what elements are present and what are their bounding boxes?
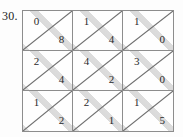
cell-lower-digit: 5 bbox=[160, 115, 166, 126]
cell-lower-digit: 0 bbox=[160, 74, 166, 85]
cell-diagonal-icon bbox=[123, 11, 173, 50]
highlight-stripe bbox=[123, 91, 173, 131]
lattice-cell-r3c3: 1 5 bbox=[123, 91, 173, 131]
lattice-cell-r2c1: 2 4 bbox=[23, 51, 73, 91]
highlight-stripe bbox=[23, 11, 73, 51]
highlight-stripe bbox=[73, 91, 123, 131]
lattice-cell-r3c1: 1 2 bbox=[23, 91, 73, 131]
lattice-cell-r1c1: 0 8 bbox=[23, 11, 73, 51]
cell-diagonal-icon bbox=[73, 91, 122, 131]
lattice-cell-r1c2: 1 4 bbox=[73, 11, 123, 51]
cell-lower-digit: 2 bbox=[59, 115, 65, 126]
lattice-grid: 0 8 1 4 1 0 2 4 4 2 bbox=[22, 10, 174, 132]
highlight-stripe bbox=[23, 51, 73, 91]
cell-diagonal-icon bbox=[73, 11, 122, 50]
lattice-problem-figure: 30. 0 8 1 4 1 0 2 4 bbox=[0, 0, 183, 137]
highlight-stripe bbox=[23, 91, 73, 131]
cell-upper-digit: 2 bbox=[84, 97, 90, 108]
highlight-stripe bbox=[73, 51, 123, 91]
highlight-stripe bbox=[123, 51, 173, 91]
cell-upper-digit: 3 bbox=[134, 56, 140, 67]
highlight-stripe bbox=[123, 11, 173, 51]
cell-diagonal-icon bbox=[73, 51, 122, 90]
lattice-cell-r1c3: 1 0 bbox=[123, 11, 173, 51]
lattice-cell-r3c2: 2 1 bbox=[73, 91, 123, 131]
cell-lower-digit: 1 bbox=[109, 115, 115, 126]
problem-number-label: 30. bbox=[2, 9, 18, 24]
cell-upper-digit: 0 bbox=[34, 16, 40, 27]
cell-diagonal-icon bbox=[123, 51, 173, 90]
cell-diagonal-icon bbox=[23, 91, 72, 131]
cell-lower-digit: 4 bbox=[109, 34, 115, 45]
lattice-cell-r2c2: 4 2 bbox=[73, 51, 123, 91]
cell-diagonal-icon bbox=[23, 51, 72, 90]
highlight-stripe bbox=[73, 11, 123, 51]
cell-upper-digit: 4 bbox=[84, 56, 90, 67]
cell-diagonal-icon bbox=[23, 11, 72, 50]
lattice-cell-r2c3: 3 0 bbox=[123, 51, 173, 91]
cell-lower-digit: 2 bbox=[109, 74, 115, 85]
cell-upper-digit: 1 bbox=[84, 16, 90, 27]
cell-upper-digit: 1 bbox=[134, 16, 140, 27]
cell-upper-digit: 2 bbox=[34, 56, 40, 67]
cell-upper-digit: 1 bbox=[134, 97, 140, 108]
cell-lower-digit: 8 bbox=[59, 34, 65, 45]
cell-lower-digit: 4 bbox=[59, 74, 65, 85]
cell-lower-digit: 0 bbox=[160, 34, 166, 45]
cell-upper-digit: 1 bbox=[34, 97, 40, 108]
cell-diagonal-icon bbox=[123, 91, 173, 131]
